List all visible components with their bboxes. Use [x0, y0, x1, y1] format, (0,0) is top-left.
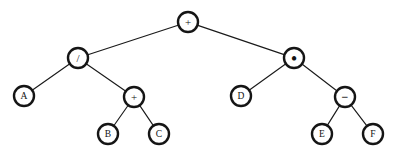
node-label: D — [238, 91, 245, 101]
tree-edge-n6-n9 — [327, 106, 339, 125]
node-label: A — [21, 91, 28, 101]
tree-edge-n4-n7 — [114, 106, 128, 126]
tree-edge-n4-n8 — [140, 106, 153, 126]
tree-node-operator-mul[interactable]: • — [284, 48, 304, 68]
tree-edge-n0-n1 — [88, 25, 178, 55]
tree-node-operator-plus[interactable]: + — [124, 87, 144, 107]
tree-node-operator-plus[interactable]: + — [178, 12, 198, 32]
tree-node-operand-a[interactable]: A — [14, 86, 34, 106]
node-label: + — [131, 91, 137, 103]
tree-node-operator-minus[interactable]: − — [335, 87, 355, 107]
tree-edges-group — [33, 25, 367, 125]
tree-node-operand-b[interactable]: B — [98, 124, 118, 144]
tree-edge-n1-n4 — [87, 64, 126, 91]
node-label: − — [342, 90, 349, 104]
node-label: E — [319, 129, 325, 139]
tree-edge-n2-n6 — [302, 64, 336, 90]
node-label: C — [156, 129, 162, 139]
tree-node-operand-e[interactable]: E — [312, 124, 332, 144]
tree-edge-n0-n2 — [198, 25, 284, 54]
expression-tree-canvas: +/•A+D−BCEF — [0, 0, 398, 156]
tree-edge-n6-n10 — [351, 105, 366, 125]
tree-node-operator-div[interactable]: / — [68, 48, 88, 68]
node-label: • — [291, 50, 297, 67]
tree-edge-n2-n5 — [249, 64, 285, 90]
node-label: F — [370, 129, 375, 139]
node-label: + — [185, 16, 191, 28]
tree-node-operand-c[interactable]: C — [149, 124, 169, 144]
tree-edge-n1-n3 — [33, 64, 70, 90]
node-label: B — [105, 129, 111, 139]
tree-node-operand-f[interactable]: F — [363, 124, 383, 144]
tree-node-operand-d[interactable]: D — [231, 86, 251, 106]
expression-tree-figure: +/•A+D−BCEF — [0, 0, 398, 156]
